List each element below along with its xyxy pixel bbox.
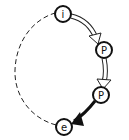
node-p1: P [96,42,112,58]
bold-arrow-p2-to-e [71,101,95,126]
node-i: i [55,6,71,22]
node-p2: P [93,87,109,103]
node-e-label: e [61,122,67,133]
node-i-label: i [62,9,65,20]
node-p1-label: P [101,45,107,56]
hollow-arrow-p1-to-p2 [97,58,111,89]
node-e: e [56,119,72,135]
cycle-diagram: i P P e [0,0,129,140]
hollow-arrow-i-to-p1 [71,16,101,44]
dashed-return-arc [15,13,56,125]
node-p2-label: P [98,90,104,101]
